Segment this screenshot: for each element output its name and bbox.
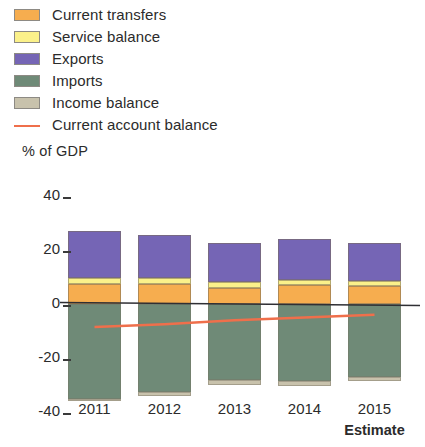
x-axis-tick-label: 2014: [270, 400, 340, 417]
y-axis-tick-label: -20: [8, 350, 60, 364]
legend-swatch-service-balance: [14, 31, 40, 43]
y-axis-tick-mark: [63, 251, 71, 253]
x-axis-labels: 20112012201320142015Estimate: [0, 400, 425, 447]
legend-item-label: Service balance: [52, 29, 160, 45]
current-account-balance-line: [95, 315, 375, 327]
y-axis-title: % of GDP: [22, 143, 88, 159]
plot-area: 40200-20-40: [0, 170, 425, 410]
x-axis-tick-label: 2011: [60, 400, 130, 417]
x-axis-tick-label: 2013: [200, 400, 270, 417]
legend-item-label: Current account balance: [52, 117, 218, 133]
legend-swatch-imports: [14, 75, 40, 87]
legend-item: Income balance: [14, 92, 414, 114]
legend-item-label: Exports: [52, 51, 104, 67]
legend-item: Exports: [14, 48, 414, 70]
zero-axis-line: [60, 303, 420, 306]
x-axis-estimate-note: Estimate: [330, 422, 420, 438]
legend-swatch-exports: [14, 53, 40, 65]
y-axis-tick-mark: [63, 359, 71, 361]
x-axis-tick-label: 2012: [130, 400, 200, 417]
y-axis-tick-label: 20: [8, 242, 60, 256]
x-axis-tick-label: 2015: [340, 400, 410, 417]
y-axis-tick-mark: [63, 305, 71, 307]
lines-layer: [0, 170, 425, 410]
chart-legend: Current transfersService balanceExportsI…: [14, 4, 414, 136]
legend-item-label: Current transfers: [52, 7, 166, 23]
legend-item: Service balance: [14, 26, 414, 48]
legend-item-label: Imports: [52, 73, 103, 89]
legend-item-label: Income balance: [52, 95, 159, 111]
legend-item: Current account balance: [14, 114, 414, 136]
y-axis-tick-mark: [63, 197, 71, 199]
legend-item: Imports: [14, 70, 414, 92]
legend-swatch-current-transfers: [14, 9, 40, 21]
legend-item: Current transfers: [14, 4, 414, 26]
legend-line-current-account-balance: [14, 119, 40, 131]
y-axis-tick-label: 0: [8, 296, 60, 310]
y-axis-tick-label: 40: [8, 188, 60, 202]
chart-root: Current transfersService balanceExportsI…: [0, 0, 425, 447]
legend-swatch-income-balance: [14, 97, 40, 109]
